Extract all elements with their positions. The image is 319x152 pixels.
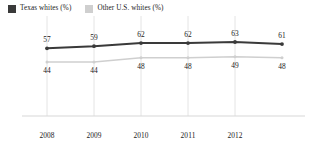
x-tick-2010: 2010 (133, 132, 148, 139)
data-point (233, 40, 237, 44)
value-label: 48 (184, 63, 192, 70)
data-point (281, 56, 284, 59)
legend-label-other-us-whites: Other U.S. whites (%) (97, 5, 163, 12)
value-label: 48 (137, 63, 145, 70)
x-tick-2008: 2008 (39, 132, 54, 139)
x-tick-2011: 2011 (181, 132, 196, 139)
data-point (140, 56, 143, 59)
data-point (139, 41, 143, 45)
chart-legend: Texas whites (%) Other U.S. whites (%) (8, 2, 164, 16)
data-point (186, 41, 190, 45)
data-point (45, 46, 49, 50)
data-point (93, 61, 96, 64)
data-point (280, 42, 284, 46)
legend-swatch-texas-whites (8, 5, 16, 13)
value-label: 63 (231, 30, 239, 37)
value-label: 48 (278, 63, 286, 70)
x-tick-2009: 2009 (86, 132, 101, 139)
data-point (187, 56, 190, 59)
series-line-other-us-whites (47, 57, 282, 62)
value-label: 61 (278, 32, 286, 39)
value-label: 59 (90, 34, 98, 41)
value-label: 44 (90, 67, 98, 74)
series-line-texas-whites (47, 42, 282, 48)
x-axis-tick-labels: 20082009201020112012 (0, 132, 319, 146)
value-label: 62 (184, 31, 192, 38)
data-point (46, 61, 49, 64)
value-label: 44 (43, 67, 51, 74)
legend-item-texas-whites: Texas whites (%) (8, 5, 71, 13)
value-label: 57 (43, 36, 51, 43)
legend-label-texas-whites: Texas whites (%) (20, 5, 71, 12)
data-point (234, 55, 237, 58)
x-tick-2012: 2012 (227, 132, 242, 139)
data-point (92, 44, 96, 48)
value-label: 49 (231, 62, 239, 69)
value-label: 62 (137, 31, 145, 38)
line-chart: Texas whites (%) Other U.S. whites (%) 5… (0, 0, 319, 152)
legend-swatch-other-us-whites (85, 5, 93, 13)
legend-item-other-us-whites: Other U.S. whites (%) (85, 5, 163, 13)
